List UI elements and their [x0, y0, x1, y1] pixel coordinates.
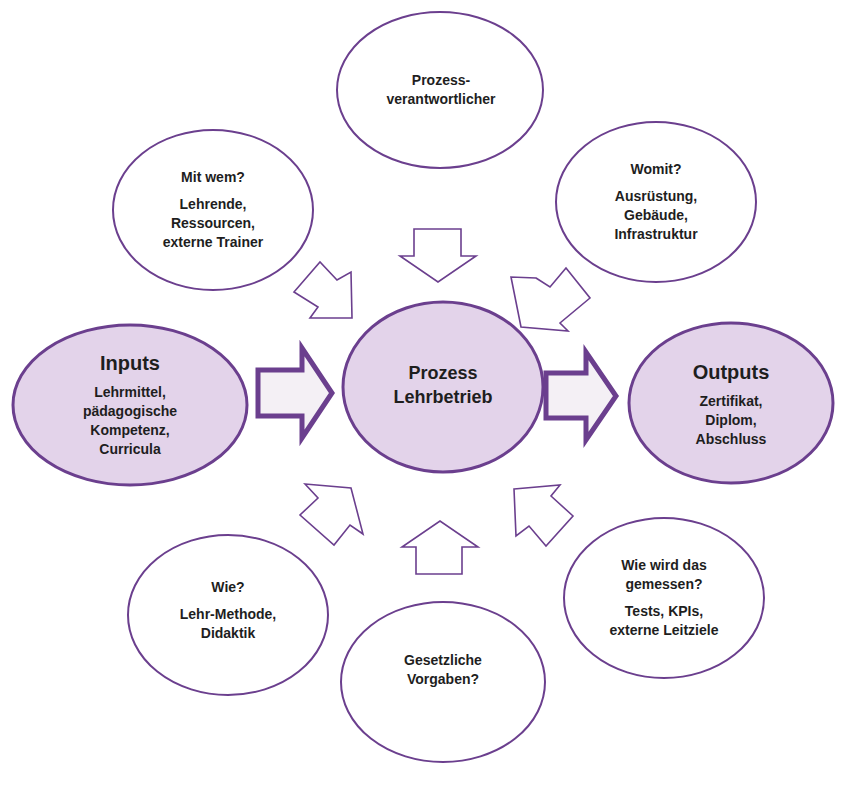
node-outputs: Outputs Zertifikat, Diplom, Abschluss — [631, 340, 831, 470]
node-womit-line-2: Gebäude, — [624, 206, 688, 225]
arrow-right-icon — [258, 348, 332, 438]
node-mit-wem-line-3: externe Trainer — [163, 233, 263, 252]
node-womit-line-1: Ausrüstung, — [615, 187, 697, 206]
node-inputs: Inputs Lehrmittel, pädagogische Kompeten… — [20, 330, 240, 480]
arrow-right-icon — [546, 352, 616, 440]
node-center-line-1: Prozess — [408, 361, 477, 385]
node-outputs-line-2: Diplom, — [705, 411, 756, 430]
node-messung-line-1: Tests, KPIs, — [625, 602, 703, 621]
node-womit-question: Womit? — [630, 160, 681, 179]
arrow-up-right-icon — [300, 484, 363, 545]
node-inputs-line-1: Lehrmittel, — [94, 383, 166, 402]
node-outputs-title: Outputs — [693, 361, 770, 384]
node-inputs-line-3: Kompetenz, — [90, 421, 169, 440]
node-messung-question-2: gemessen? — [625, 575, 702, 594]
node-womit: Womit? Ausrüstung, Gebäude, Infrastruktu… — [556, 132, 756, 272]
node-outputs-line-3: Abschluss — [696, 430, 767, 449]
arrow-down-left-icon — [511, 268, 590, 331]
node-center-line-2: Lehrbetrieb — [393, 385, 492, 409]
node-inputs-line-2: pädagogische — [83, 402, 177, 421]
node-gesetzlich-line-1: Gesetzliche — [404, 651, 482, 670]
node-messung-question-1: Wie wird das — [621, 556, 706, 575]
node-inputs-title: Inputs — [100, 352, 160, 375]
node-messung: Wie wird das gemessen? Tests, KPIs, exte… — [564, 530, 764, 666]
node-center: Prozess Lehrbetrieb — [343, 330, 543, 440]
node-gesetzlich: Gesetzliche Vorgaben? — [343, 630, 543, 710]
node-inputs-line-4: Curricula — [99, 440, 160, 459]
node-top-line-2: verantwortlicher — [387, 90, 496, 109]
node-outputs-line-1: Zertifikat, — [699, 392, 762, 411]
node-top: Prozess- verantwortlicher — [338, 30, 544, 150]
node-mit-wem-line-1: Lehrende, — [180, 195, 247, 214]
node-wie-question: Wie? — [211, 578, 244, 597]
node-womit-line-3: Infrastruktur — [614, 225, 697, 244]
node-mit-wem-line-2: Ressourcen, — [171, 214, 255, 233]
arrow-down-icon — [400, 229, 476, 282]
node-wie-line-2: Didaktik — [201, 624, 255, 643]
node-wie: Wie? Lehr-Methode, Didaktik — [128, 555, 328, 665]
node-gesetzlich-line-2: Vorgaben? — [407, 670, 479, 689]
node-mit-wem: Mit wem? Lehrende, Ressourcen, externe T… — [113, 140, 313, 280]
arrow-up-icon — [402, 521, 478, 574]
node-top-line-1: Prozess- — [412, 71, 470, 90]
node-mit-wem-question: Mit wem? — [181, 168, 245, 187]
node-messung-line-2: externe Leitziele — [610, 621, 719, 640]
node-wie-line-1: Lehr-Methode, — [180, 605, 276, 624]
